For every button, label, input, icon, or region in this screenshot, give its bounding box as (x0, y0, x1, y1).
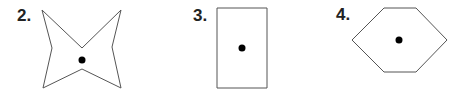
center-dot (239, 45, 246, 52)
center-dot (396, 37, 403, 44)
center-dot (79, 57, 86, 64)
star-shape (42, 10, 121, 88)
shapes-canvas (0, 0, 466, 97)
